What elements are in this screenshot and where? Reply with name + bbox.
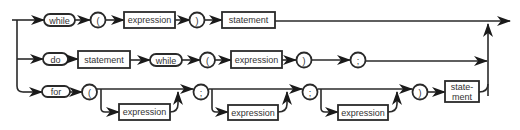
entry-trunk — [12, 20, 23, 92]
while-close-paren: ) — [190, 13, 205, 28]
statement-label-line1: state- — [451, 82, 474, 92]
do-close-paren: ) — [297, 53, 312, 68]
while-row: while ( expression ) statement — [17, 12, 510, 28]
for-close-paren: ) — [413, 85, 428, 100]
while-open-paren: ( — [91, 13, 106, 28]
expression-label: expression — [123, 107, 167, 117]
do-statement-box: statement — [78, 51, 130, 68]
statement-label: statement — [84, 55, 124, 65]
for-init-expression-box: expression — [119, 104, 170, 120]
for-row: for ( expression ; expression ; — [23, 81, 488, 120]
do-keyword-label: do — [50, 55, 60, 65]
for-statement-box: state- ment — [445, 81, 479, 102]
do-open-paren: ( — [200, 53, 215, 68]
close-paren-label: ) — [419, 88, 422, 98]
semicolon-label: ; — [200, 88, 203, 98]
for-keyword-oval: for — [42, 86, 70, 97]
do-keyword-oval: do — [43, 53, 68, 65]
for-incr-expression-box: expression — [338, 105, 388, 120]
for-cond-expression-box: expression — [228, 105, 278, 120]
close-paren-label: ) — [196, 16, 199, 26]
syntax-diagram: while ( expression ) statement do — [0, 0, 520, 130]
while-statement-box: statement — [222, 12, 275, 28]
while-keyword-oval: while — [44, 14, 75, 26]
for-keyword-label: for — [51, 87, 62, 97]
while-expression-box: expression — [124, 12, 175, 28]
open-paren-label: ( — [88, 88, 91, 98]
close-paren-label: ) — [303, 56, 306, 66]
expression-label: expression — [341, 108, 385, 118]
statement-label-line2: ment — [452, 92, 473, 102]
for-open-paren: ( — [82, 85, 97, 100]
do-row: do statement while ( expression ) — [17, 51, 487, 68]
expression-label: expression — [128, 15, 172, 25]
statement-label: statement — [229, 15, 269, 25]
for-semicolon-2: ; — [303, 85, 318, 100]
do-semicolon: ; — [351, 53, 366, 68]
while-keyword-label: while — [155, 56, 177, 66]
while-keyword-label: while — [48, 16, 70, 26]
do-expression-box: expression — [231, 51, 282, 68]
for-semicolon-1: ; — [194, 85, 209, 100]
semicolon-label: ; — [309, 88, 312, 98]
expression-label: expression — [235, 55, 279, 65]
open-paren-label: ( — [97, 16, 100, 26]
semicolon-label: ; — [357, 56, 360, 66]
expression-label: expression — [231, 108, 275, 118]
do-while-keyword-oval: while — [150, 54, 182, 66]
open-paren-label: ( — [206, 56, 209, 66]
